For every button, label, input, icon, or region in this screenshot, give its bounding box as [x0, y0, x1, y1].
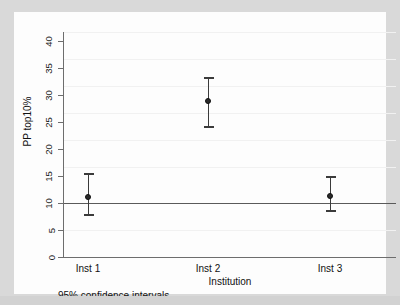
- y-tick-text: 10: [43, 198, 54, 209]
- screenshot-root: 40 35 30 25 20 15 10 5 0 PP top10%: [0, 0, 400, 305]
- y-tick-label-15: 15: [14, 171, 54, 182]
- y-tick-0: [58, 257, 63, 258]
- data-point-marker[interactable]: [327, 193, 333, 199]
- y-tick-label-25: 25: [14, 117, 54, 128]
- y-tick-label-0: 0: [14, 252, 54, 263]
- y-tick-text: 30: [43, 90, 54, 101]
- y-tick-label-30: 30: [14, 90, 54, 101]
- errorbar-lower-cap: [84, 214, 94, 216]
- gridline: [64, 86, 396, 87]
- gridline: [64, 113, 396, 114]
- y-tick-text: 25: [43, 117, 54, 128]
- y-axis-line: [63, 32, 64, 258]
- y-tick-label-10: 10: [14, 198, 54, 209]
- y-tick-text: 20: [43, 144, 54, 155]
- x-tick-label-inst-3: Inst 3: [290, 263, 370, 274]
- y-tick-40: [58, 41, 63, 42]
- gridline: [64, 32, 396, 33]
- x-axis-line: [63, 257, 396, 258]
- x-tick-label-inst-1: Inst 1: [48, 263, 128, 274]
- y-tick-30: [58, 95, 63, 96]
- y-axis-title: PP top10%: [22, 72, 33, 172]
- gridline: [64, 140, 396, 141]
- data-point-marker[interactable]: [205, 98, 211, 104]
- y-tick-text: 15: [43, 171, 54, 182]
- scan-edge-band: [0, 296, 400, 305]
- x-tick-label-inst-2: Inst 2: [168, 263, 248, 274]
- errorbar-lower-cap: [204, 126, 214, 128]
- gridline: [64, 59, 396, 60]
- y-tick-text: 5: [46, 228, 57, 233]
- data-point-marker[interactable]: [85, 194, 91, 200]
- y-tick-25: [58, 122, 63, 123]
- y-tick-label-20: 20: [14, 144, 54, 155]
- y-tick-label-40: 40: [14, 36, 54, 47]
- y-tick-text: 0: [46, 255, 57, 260]
- y-tick-label-35: 35: [14, 63, 54, 74]
- y-tick-5: [58, 230, 63, 231]
- gridline: [64, 230, 396, 231]
- y-tick-label-5: 5: [14, 225, 54, 236]
- y-tick-35: [58, 68, 63, 69]
- y-tick-text: 35: [43, 63, 54, 74]
- chart-card: 40 35 30 25 20 15 10 5 0 PP top10%: [14, 12, 386, 294]
- y-tick-15: [58, 176, 63, 177]
- reference-line-10: [64, 203, 396, 204]
- errorbar-lower-cap: [326, 210, 336, 212]
- y-tick-text: 40: [43, 36, 54, 47]
- x-axis-title: Institution: [64, 276, 396, 287]
- y-tick-20: [58, 149, 63, 150]
- gridline: [64, 167, 396, 168]
- y-tick-10: [58, 203, 63, 204]
